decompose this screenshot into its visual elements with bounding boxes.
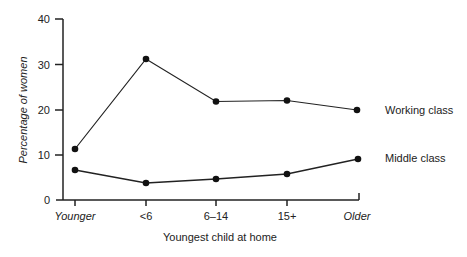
x-tick-15-plus: 15+	[278, 210, 297, 222]
data-point	[143, 180, 150, 187]
y-tick-0: 0	[44, 194, 50, 206]
data-point	[284, 171, 291, 178]
data-point	[213, 176, 220, 183]
series-middle-class: Middle class	[72, 152, 446, 186]
data-point	[72, 167, 79, 174]
y-tick-10: 10	[38, 149, 50, 161]
y-tick-20: 20	[38, 104, 50, 116]
data-point	[143, 56, 150, 63]
y-axis-title: Percentage of women	[17, 56, 29, 163]
data-point	[72, 146, 79, 153]
x-tick-6-14: 6–14	[204, 210, 228, 222]
data-point	[213, 98, 220, 105]
series-working-class: Working class	[72, 56, 454, 153]
x-tick-older: Older	[344, 210, 372, 222]
line-chart: 40 30 20 10 0 Percentage of women Younge…	[0, 0, 467, 257]
y-axis: 40 30 20 10 0 Percentage of women	[17, 13, 63, 206]
x-tick-younger: Younger	[55, 210, 97, 222]
legend-working-class: Working class	[385, 104, 454, 116]
x-axis-title: Youngest child at home	[163, 231, 277, 243]
y-tick-40: 40	[38, 13, 50, 25]
x-tick-under-6: <6	[140, 210, 153, 222]
legend-middle-class: Middle class	[385, 152, 446, 164]
y-tick-30: 30	[38, 59, 50, 71]
x-axis: Younger <6 6–14 15+ Older Youngest child…	[55, 193, 372, 243]
data-point	[284, 97, 291, 104]
data-point	[354, 107, 361, 114]
data-point	[355, 156, 362, 163]
